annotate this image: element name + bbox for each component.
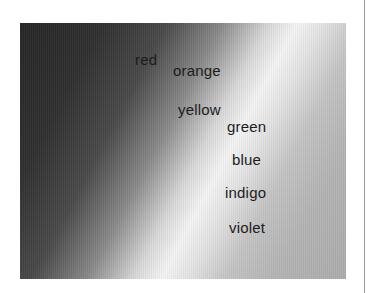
label-yellow: yellow xyxy=(178,102,221,117)
label-green: green xyxy=(227,119,266,134)
label-indigo: indigo xyxy=(225,185,266,200)
label-violet: violet xyxy=(229,220,265,235)
label-orange: orange xyxy=(173,63,221,78)
label-red: red xyxy=(135,52,157,67)
label-blue: blue xyxy=(232,152,261,167)
right-edge-divider xyxy=(364,0,365,293)
